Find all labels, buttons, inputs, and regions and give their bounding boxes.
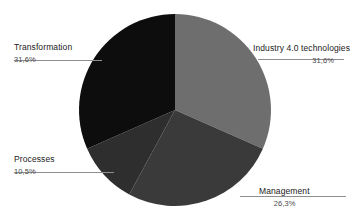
pie-label-name: Processes (14, 155, 55, 164)
pie-slices (79, 14, 271, 206)
pie-chart-figure: Industry 4.0 technologies 31,6% Transfor… (0, 0, 361, 222)
pie-label-processes: Processes 10,5% (14, 155, 55, 176)
pie-label-name: Management (259, 187, 310, 196)
pie-label-name: Transformation (14, 43, 72, 52)
pie-label-name: Industry 4.0 technologies (253, 44, 350, 53)
pie-label-management: Management 26,3% (259, 187, 310, 208)
pie-label-percent: 26,3% (259, 200, 310, 208)
pie-label-percent: 31,6% (14, 56, 72, 64)
pie-label-percent: 10,5% (14, 168, 55, 176)
pie-label-percent: 31,6% (253, 57, 350, 65)
pie-label-industry-40-technologies: Industry 4.0 technologies 31,6% (253, 44, 350, 65)
pie-label-transformation: Transformation 31,6% (14, 43, 72, 64)
